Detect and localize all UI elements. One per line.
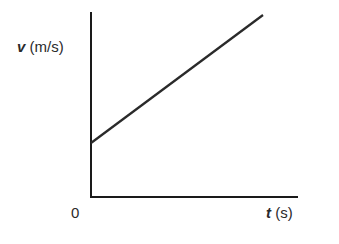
data-line: [91, 15, 263, 143]
y-unit: (m/s): [25, 38, 63, 55]
x-axis-label: t (s): [266, 204, 293, 221]
origin-label: 0: [71, 204, 79, 221]
y-axis-label: v (m/s): [17, 38, 64, 55]
x-unit: (s): [271, 204, 293, 221]
